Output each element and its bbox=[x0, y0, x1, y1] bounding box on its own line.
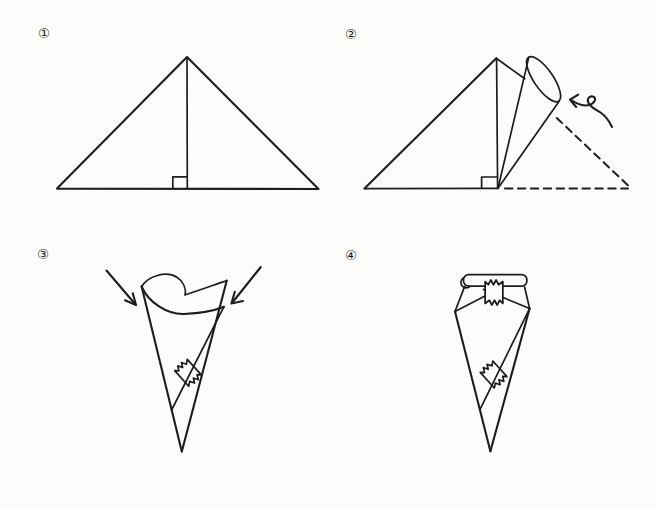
triangle-left-edge bbox=[365, 58, 497, 188]
right-angle-mark bbox=[482, 177, 498, 188]
wrap-flap-edge bbox=[185, 281, 227, 295]
step-4-diagram bbox=[455, 275, 530, 452]
step-3-diagram bbox=[107, 267, 261, 452]
right-shoulder-edge bbox=[525, 287, 530, 309]
apex-fold-edge bbox=[496, 58, 525, 79]
press-arrow-right-shaft bbox=[232, 267, 261, 303]
center-crease-line bbox=[497, 59, 498, 188]
cone-right-edge bbox=[498, 102, 559, 189]
body-left-edge bbox=[455, 312, 490, 452]
seam-line bbox=[480, 309, 530, 410]
cone-left-edge bbox=[498, 58, 529, 189]
tape-seal-on-seam bbox=[479, 360, 508, 389]
cone-right-edge bbox=[182, 281, 227, 452]
origami-instruction-sheet: ① ② ③ ④ bbox=[0, 0, 657, 507]
step-2-diagram bbox=[365, 52, 629, 189]
tape-seal-top bbox=[485, 280, 503, 305]
curl-arrow-tail bbox=[571, 96, 613, 127]
body-right-edge bbox=[490, 309, 529, 452]
curl-roll-arrow bbox=[570, 95, 612, 127]
step-1-diagram bbox=[57, 57, 319, 189]
tape-seal-on-seam bbox=[174, 358, 203, 387]
cone-front-rim-arc bbox=[142, 287, 224, 315]
press-arrow-left bbox=[107, 271, 137, 306]
cone-back-rim-arc bbox=[142, 274, 186, 294]
right-angle-mark bbox=[173, 177, 187, 188]
press-arrow-left-shaft bbox=[107, 271, 136, 305]
dashed-edge-ghost-line bbox=[555, 117, 628, 186]
press-arrow-right bbox=[231, 267, 260, 304]
origami-diagram-art bbox=[0, 0, 657, 507]
cone-opening-rim bbox=[521, 52, 567, 107]
cone-left-edge bbox=[142, 287, 182, 452]
